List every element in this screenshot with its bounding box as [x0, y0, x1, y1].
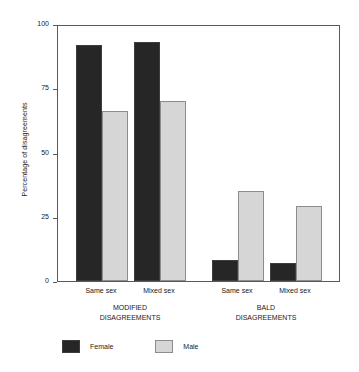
- y-axis-title: Percentage of disagreements: [21, 50, 28, 250]
- x-axis-tick-label: Mixed sex: [119, 287, 199, 294]
- legend-swatch-male: [155, 340, 173, 353]
- y-axis-tick-label: 100: [37, 20, 49, 27]
- bar-chart-figure: Percentage of disagreements 0255075100 S…: [0, 0, 359, 372]
- bar-female-3: [270, 263, 296, 281]
- plot-area: [57, 25, 340, 282]
- x-axis-group-label: BALDDISAGREEMENTS: [206, 303, 326, 323]
- legend-label: Male: [183, 343, 198, 350]
- legend-item-male: Male: [155, 340, 198, 353]
- group-label-line2: DISAGREEMENTS: [206, 313, 326, 323]
- y-axis-tick-label: 0: [45, 277, 49, 284]
- y-axis-tick-label: 25: [41, 213, 49, 220]
- legend-swatch-female: [62, 340, 80, 353]
- y-axis-tick-label: 50: [41, 149, 49, 156]
- legend-label: Female: [90, 343, 113, 350]
- legend-item-female: Female: [62, 340, 113, 353]
- bar-male-3: [296, 206, 322, 281]
- bar-male-1: [160, 101, 186, 281]
- group-label-line1: BALD: [206, 303, 326, 313]
- bar-female-1: [134, 42, 160, 281]
- bar-female-2: [212, 260, 238, 281]
- x-axis-group-label: MODIFIEDDISAGREEMENTS: [70, 303, 190, 323]
- bar-female-0: [76, 45, 102, 281]
- group-label-line2: DISAGREEMENTS: [70, 313, 190, 323]
- y-axis-tick-mark: [53, 282, 57, 283]
- bar-male-2: [238, 191, 264, 281]
- chart-legend: FemaleMale: [62, 340, 199, 353]
- group-label-line1: MODIFIED: [70, 303, 190, 313]
- bar-male-0: [102, 111, 128, 281]
- x-axis-tick-label: Mixed sex: [255, 287, 335, 294]
- y-axis-tick-label: 75: [41, 84, 49, 91]
